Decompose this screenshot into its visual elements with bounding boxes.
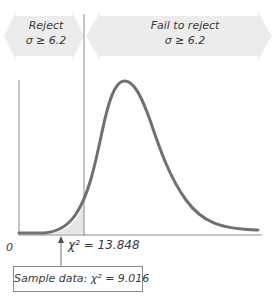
- sample-data-box: Sample data: χ² = 9.016: [13, 266, 143, 292]
- fail-to-reject-title: Fail to reject: [110, 18, 260, 33]
- fail-to-reject-region-label: Fail to reject σ ≥ 6.2: [110, 18, 260, 48]
- reject-region-label: Reject σ ≥ 6.2: [12, 18, 80, 48]
- reject-condition: σ ≥ 6.2: [12, 33, 80, 48]
- reject-title: Reject: [12, 18, 80, 33]
- origin-label: 0: [6, 240, 13, 255]
- critical-value-label: χ² = 13.848: [68, 238, 140, 253]
- sample-arrow-head: [58, 236, 64, 243]
- chi-square-curve: [19, 81, 258, 233]
- fail-to-reject-condition: σ ≥ 6.2: [110, 33, 260, 48]
